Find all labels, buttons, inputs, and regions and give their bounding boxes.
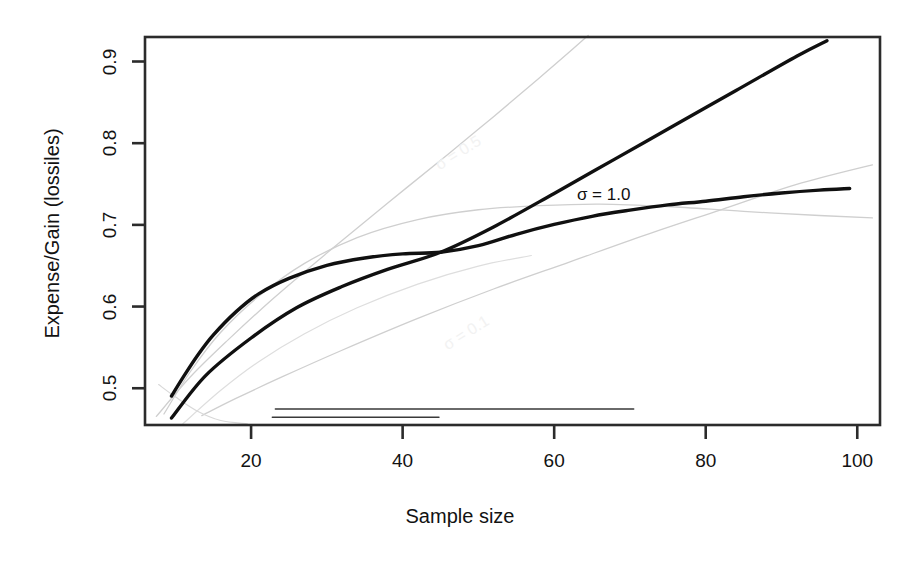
y-tick-label-4: 0.9 [99, 40, 121, 84]
series-line-steep-bold [172, 41, 827, 418]
x-tick-label-2: 60 [524, 450, 584, 472]
y-axis-title: Expense/Gain (lossiles) [41, 74, 64, 394]
baseline-rule-layer [236, 409, 634, 425]
plot-frame [145, 37, 880, 425]
annotation-0: σ = 1.0 [577, 185, 631, 205]
bold-series-layer [172, 41, 850, 418]
x-tick-label-3: 80 [676, 450, 736, 472]
plot-canvas [0, 0, 918, 575]
x-tick-label-1: 40 [373, 450, 433, 472]
y-tick-label-3: 0.8 [99, 121, 121, 165]
y-tick-label-0: 0.5 [99, 366, 121, 410]
y-tick-label-2: 0.7 [99, 203, 121, 247]
y-tick-label-1: 0.6 [99, 285, 121, 329]
x-axis-title: Sample size [345, 505, 575, 528]
gray-series-layer [156, 35, 872, 423]
x-tick-label-0: 20 [221, 450, 281, 472]
x-tick-label-4: 100 [827, 450, 887, 472]
chart-figure: Expense/Gain (lossiles) Sample size 0.50… [0, 0, 918, 575]
series-line-gray-steep-1 [156, 35, 588, 416]
